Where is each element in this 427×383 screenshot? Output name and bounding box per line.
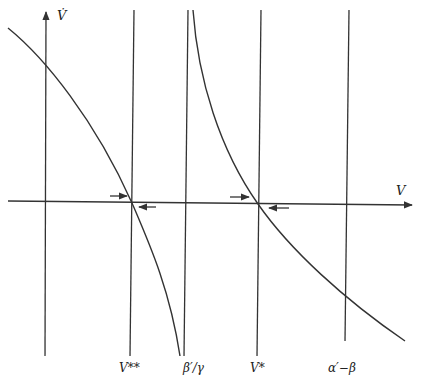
beta-over-gamma-label: β′/γ <box>182 361 205 375</box>
v-star-line <box>257 10 261 356</box>
phase-diagram: V̇ V V** β′/γ V* α′−β <box>0 0 427 383</box>
alpha-minus-beta-label: α′−β <box>328 361 356 375</box>
v-double-star-line <box>130 10 134 356</box>
left-branch-curve <box>8 28 180 356</box>
x-axis <box>8 201 412 205</box>
v-star-label: V* <box>250 361 265 375</box>
alpha-minus-beta-line <box>345 10 349 341</box>
x-axis-label: V <box>396 183 407 198</box>
right-branch-curve <box>193 10 405 341</box>
beta-over-gamma-asymptote <box>184 10 188 356</box>
y-axis-label: V̇ <box>57 8 68 23</box>
v-double-star-label: V** <box>119 361 140 375</box>
